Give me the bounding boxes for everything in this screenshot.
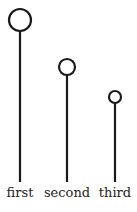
- marker-first: [9, 9, 31, 31]
- marker-third: [109, 91, 121, 103]
- category-label-second: second: [44, 185, 90, 200]
- category-label-third: third: [99, 185, 131, 200]
- category-label-first: first: [7, 185, 35, 200]
- lollipop-second: second: [44, 59, 90, 200]
- lollipop-third: third: [99, 91, 131, 200]
- marker-second: [59, 59, 75, 75]
- lollipop-first: first: [7, 9, 35, 200]
- lollipop-chart: first second third: [0, 0, 137, 212]
